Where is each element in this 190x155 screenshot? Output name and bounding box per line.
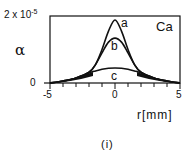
curve-label-b: b xyxy=(111,40,118,52)
panel-label: (i) xyxy=(101,139,114,150)
curve-label-a: a xyxy=(121,17,128,29)
curve-label-c: c xyxy=(111,70,117,82)
x-tick-zero: 0 xyxy=(112,90,118,100)
y-axis-label: α xyxy=(15,43,25,58)
x-tick-minus5: -5 xyxy=(43,90,52,100)
y-tick-zero: 0 xyxy=(30,78,36,88)
x-axis-label: r[mm] xyxy=(137,109,173,121)
element-label: Ca xyxy=(156,20,173,33)
x-tick-5: 5 xyxy=(176,90,182,100)
y-tick-top: 2 x 10-5 xyxy=(4,8,37,20)
